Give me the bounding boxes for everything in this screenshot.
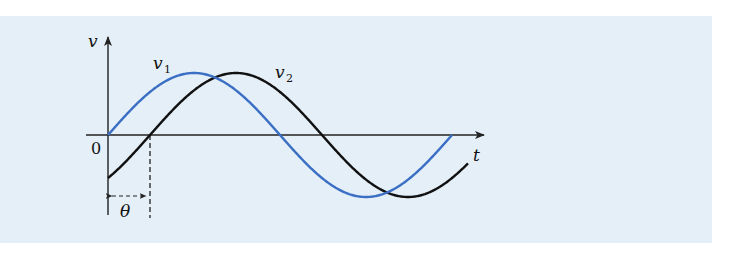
origin-label: 0 bbox=[91, 139, 101, 158]
sine-phase-diagram: v t 0 θ v 1 v 2 bbox=[0, 0, 730, 256]
v2-label: v 2 bbox=[275, 62, 293, 85]
svg-text:2: 2 bbox=[286, 72, 293, 85]
svg-text:v: v bbox=[153, 53, 163, 73]
t-axis-label: t bbox=[473, 145, 480, 165]
v-axis-label: v bbox=[88, 31, 98, 51]
svg-text:v: v bbox=[275, 62, 285, 82]
svg-text:1: 1 bbox=[164, 63, 171, 76]
theta-label: θ bbox=[120, 201, 130, 221]
v1-label: v 1 bbox=[153, 53, 171, 76]
